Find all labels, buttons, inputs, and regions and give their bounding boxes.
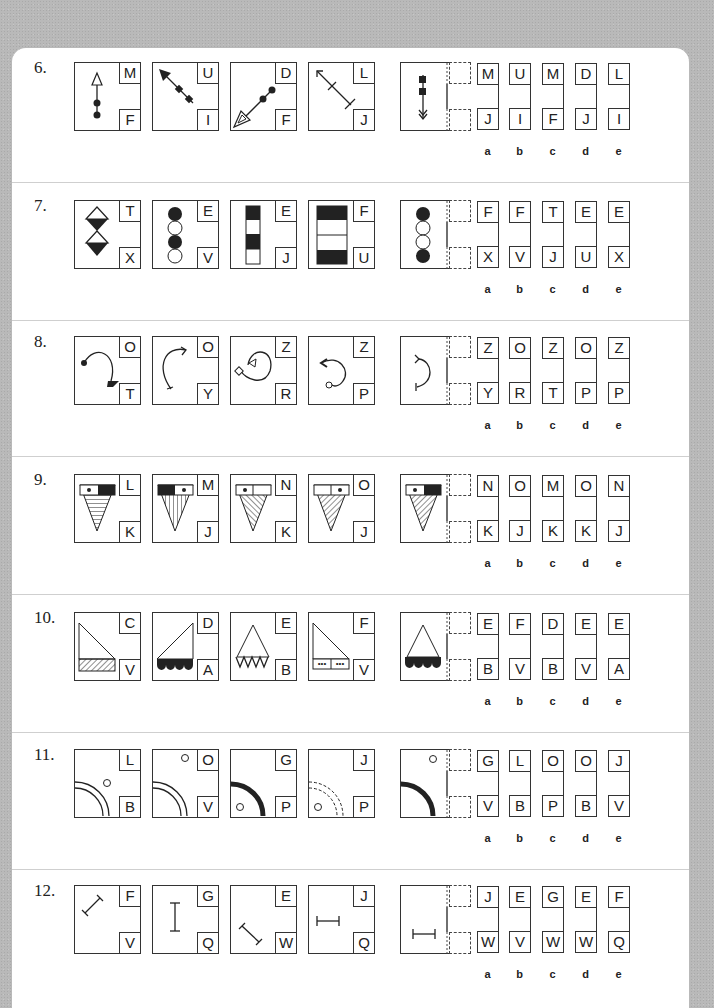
answer-option[interactable]: DJ (574, 63, 597, 130)
option-label[interactable]: b (508, 968, 531, 980)
option-label[interactable]: a (476, 695, 499, 707)
series-figure: TX (74, 200, 141, 269)
answer-option[interactable]: EW (574, 886, 597, 953)
option-label[interactable]: a (476, 283, 499, 295)
answer-option[interactable]: EX (607, 201, 630, 268)
option-label[interactable]: c (541, 283, 564, 295)
answer-option[interactable]: OR (508, 337, 531, 404)
option-label[interactable]: d (574, 283, 597, 295)
option-code-top: O (509, 337, 531, 359)
answer-option[interactable]: GV (476, 750, 499, 817)
option-label[interactable]: e (607, 419, 630, 431)
option-code-top: N (608, 475, 630, 497)
option-label[interactable]: d (574, 419, 597, 431)
option-code-bottom: X (608, 246, 630, 268)
answer-option[interactable]: EV (574, 613, 597, 680)
option-label[interactable]: b (508, 832, 531, 844)
answer-option[interactable]: JV (607, 750, 630, 817)
option-label[interactable]: c (541, 695, 564, 707)
answer-option[interactable]: MF (541, 63, 564, 130)
answer-option[interactable]: EB (476, 613, 499, 680)
option-label[interactable]: d (574, 695, 597, 707)
code-letter-top: L (119, 474, 141, 496)
answer-option[interactable]: EU (574, 201, 597, 268)
answer-option[interactable]: ZP (607, 337, 630, 404)
option-connector (563, 633, 564, 660)
series-figure: JQ (308, 885, 375, 954)
answer-option[interactable]: UI (508, 63, 531, 130)
option-code-top: M (477, 63, 499, 85)
option-code-bottom: A (608, 658, 630, 680)
answer-option[interactable]: OJ (508, 475, 531, 542)
series-figure: LB (74, 749, 141, 818)
svg-text:•••: ••• (336, 659, 345, 668)
answer-option[interactable]: OP (574, 337, 597, 404)
option-label[interactable]: a (476, 968, 499, 980)
answer-option[interactable]: FV (508, 613, 531, 680)
option-label[interactable]: e (607, 283, 630, 295)
answer-option[interactable]: OP (541, 750, 564, 817)
answer-option[interactable]: TJ (541, 201, 564, 268)
option-label[interactable]: e (607, 145, 630, 157)
answer-option[interactable]: NK (476, 475, 499, 542)
answer-option[interactable]: FX (476, 201, 499, 268)
option-label[interactable]: a (476, 832, 499, 844)
option-label[interactable]: e (607, 832, 630, 844)
option-label[interactable]: d (574, 557, 597, 569)
option-code-bottom: U (575, 246, 597, 268)
series-figure: OY (152, 336, 219, 405)
code-letter-bottom: J (353, 109, 375, 131)
option-label[interactable]: b (508, 695, 531, 707)
answer-option[interactable]: FQ (607, 886, 630, 953)
code-letter-top: C (119, 612, 141, 634)
answer-option[interactable]: JW (476, 886, 499, 953)
option-connector (563, 495, 564, 522)
option-label[interactable]: b (508, 145, 531, 157)
answer-option[interactable]: LB (508, 750, 531, 817)
question-number: 7. (34, 196, 47, 216)
answer-option[interactable]: FV (508, 201, 531, 268)
series-figure: ZP (308, 336, 375, 405)
option-code-top: O (575, 750, 597, 772)
answer-option[interactable]: GW (541, 886, 564, 953)
option-label[interactable]: d (574, 968, 597, 980)
option-connector (498, 357, 499, 384)
option-label[interactable]: b (508, 557, 531, 569)
code-letter-top: E (275, 612, 297, 634)
answer-option[interactable]: NJ (607, 475, 630, 542)
option-label[interactable]: b (508, 283, 531, 295)
option-label[interactable]: e (607, 968, 630, 980)
answer-option[interactable]: LI (607, 63, 630, 130)
option-code-bottom: J (509, 520, 531, 542)
answer-option[interactable]: ZT (541, 337, 564, 404)
answer-option[interactable]: DB (541, 613, 564, 680)
option-label[interactable]: e (607, 695, 630, 707)
answer-option[interactable]: OK (574, 475, 597, 542)
option-label[interactable]: c (541, 968, 564, 980)
option-connector (629, 770, 630, 797)
option-label[interactable]: a (476, 145, 499, 157)
option-label[interactable]: d (574, 832, 597, 844)
option-label[interactable]: c (541, 557, 564, 569)
option-connector (530, 495, 531, 522)
option-label[interactable]: d (574, 145, 597, 157)
option-label[interactable]: a (476, 557, 499, 569)
option-code-top: E (509, 886, 531, 908)
option-label[interactable]: c (541, 832, 564, 844)
option-code-top: M (542, 475, 564, 497)
option-code-bottom: R (509, 382, 531, 404)
answer-option[interactable]: OB (574, 750, 597, 817)
answer-option[interactable]: EV (508, 886, 531, 953)
answer-option[interactable]: EA (607, 613, 630, 680)
option-label[interactable]: c (541, 145, 564, 157)
series-figure: DF (230, 62, 297, 131)
answer-option[interactable]: MJ (476, 63, 499, 130)
option-label[interactable]: c (541, 419, 564, 431)
option-label[interactable]: b (508, 419, 531, 431)
answer-option[interactable]: ZY (476, 337, 499, 404)
option-code-top: E (608, 201, 630, 223)
option-label[interactable]: e (607, 557, 630, 569)
code-letter-bottom: V (197, 796, 219, 818)
answer-option[interactable]: MK (541, 475, 564, 542)
option-label[interactable]: a (476, 419, 499, 431)
